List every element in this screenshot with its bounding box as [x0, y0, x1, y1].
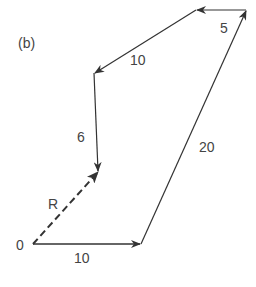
- vector-diagram: (b) 5 10 6 20 R 0 10: [0, 0, 256, 287]
- resultant-vector-r: [33, 172, 98, 244]
- label-vector-10-bottom: 10: [74, 250, 90, 266]
- label-vector-6: 6: [77, 129, 85, 145]
- label-vector-10-diagonal: 10: [130, 52, 146, 68]
- vector-20: [141, 11, 246, 244]
- label-vector-5: 5: [220, 20, 228, 36]
- label-origin: 0: [16, 237, 24, 253]
- vector-6: [94, 73, 98, 171]
- label-resultant-r: R: [48, 196, 58, 212]
- panel-label: (b): [18, 35, 35, 51]
- label-vector-20: 20: [199, 139, 215, 155]
